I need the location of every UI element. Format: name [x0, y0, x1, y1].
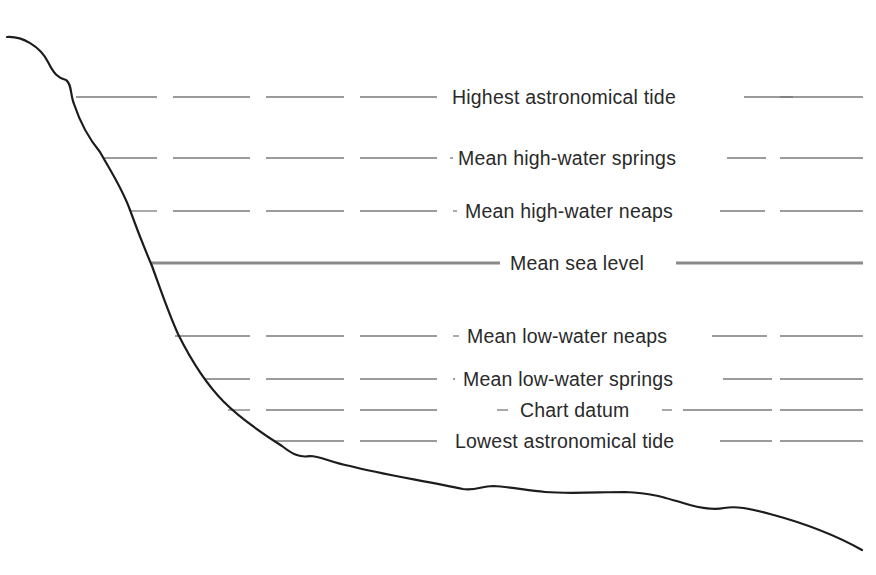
- tide-level-mean-sea-level: Mean sea level: [150, 252, 863, 274]
- level-label: Mean sea level: [510, 252, 644, 274]
- level-label: Chart datum: [520, 399, 630, 421]
- level-label: Mean high-water springs: [458, 147, 676, 169]
- level-label: Mean low-water neaps: [467, 325, 667, 347]
- level-label: Mean high-water neaps: [465, 200, 673, 222]
- tide-level-lowest-astronomical-tide: Lowest astronomical tide: [275, 430, 863, 452]
- tide-level-chart-datum: Chart datum: [228, 399, 863, 421]
- tide-level-mean-low-water-springs: Mean low-water springs: [205, 368, 863, 390]
- tide-level-mean-low-water-neaps: Mean low-water neaps: [175, 325, 863, 347]
- tidal-datum-diagram: Highest astronomical tideMean high-water…: [0, 0, 876, 575]
- tide-level-highest-astronomical-tide: Highest astronomical tide: [76, 86, 863, 108]
- seabed-profile: [7, 37, 862, 550]
- level-label: Mean low-water springs: [463, 368, 673, 390]
- tide-level-mean-high-water-neaps: Mean high-water neaps: [130, 200, 863, 222]
- level-label: Highest astronomical tide: [452, 86, 676, 108]
- level-label: Lowest astronomical tide: [455, 430, 674, 452]
- tide-levels: Highest astronomical tideMean high-water…: [76, 86, 863, 452]
- tide-level-mean-high-water-springs: Mean high-water springs: [103, 147, 863, 169]
